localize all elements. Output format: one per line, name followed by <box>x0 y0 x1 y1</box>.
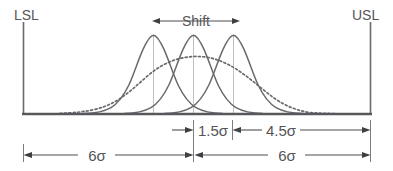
shift-label: Shift <box>182 13 210 29</box>
right-span-arrow-right <box>362 152 371 158</box>
right-span-label: 6σ <box>278 147 296 164</box>
shift-amount-label: 1.5σ <box>198 122 229 139</box>
shift-dim-arrow-left <box>185 127 194 133</box>
lsl-label: LSL <box>14 7 39 23</box>
six-sigma-shift-figure: LSL USL Shift 1.5σ 4.5σ 6σ 6σ <box>0 0 393 171</box>
left-span-arrow-left <box>24 152 33 158</box>
right-span-arrow-left <box>195 152 204 158</box>
usl-label: USL <box>352 7 379 23</box>
left-span-arrow-right <box>185 152 194 158</box>
combined-spread-curve <box>60 56 336 113</box>
right-margin-arrow-right <box>362 127 371 133</box>
left-span-label: 6σ <box>88 147 106 164</box>
right-margin-label: 4.5σ <box>266 122 297 139</box>
shift-arrow-head-right <box>232 18 240 24</box>
figure-canvas: LSL USL Shift 1.5σ 4.5σ 6σ 6σ <box>0 0 393 171</box>
shift-arrow-head-left <box>152 18 160 24</box>
